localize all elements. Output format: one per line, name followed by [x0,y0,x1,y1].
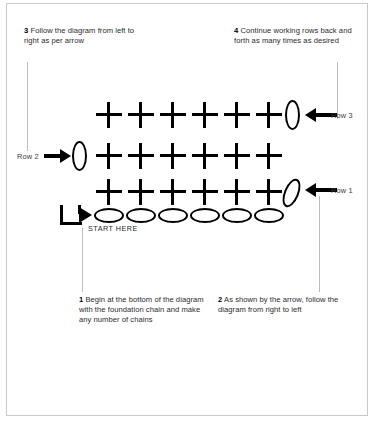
instruction-note-2: 2 As shown by the arrow, follow the diag… [218,295,343,315]
row-2-label: Row 2 [17,152,39,161]
foundation-chain-link [158,208,188,223]
instruction-note-4: 4 Continue working rows back and forth a… [234,26,359,46]
stitch-cross [192,102,218,128]
stitch-cross [192,179,218,205]
stitch-cross [256,143,282,169]
note-1-text: Begin at the bottom of the diagram with … [79,295,204,324]
diagram-page: 3 Follow the diagram from left to right … [0,0,376,421]
stitch-cross [224,102,250,128]
stitch-cross [128,143,154,169]
stitch-cross [160,143,186,169]
stitch-cross [128,102,154,128]
turning-chain-row-3 [285,100,300,130]
note-2-text: As shown by the arrow, follow the diagra… [218,295,338,314]
foundation-chain-link [222,208,252,223]
stitch-cross [256,102,282,128]
start-here-label: START HERE [88,224,138,233]
note-3-text: Follow the diagram from left to right as… [24,26,134,45]
stitch-cross [96,179,122,205]
foundation-chain-link [254,208,284,223]
turning-chain-row-2 [72,141,87,171]
instruction-note-1: 1 Begin at the bottom of the diagram wit… [79,295,204,326]
foundation-chain-link [190,208,220,223]
leader-line-note-2 [319,196,320,292]
row-1-label: Row 1 [331,186,353,195]
stitch-cross [96,143,122,169]
stitch-cross [160,179,186,205]
leader-line-note-1 [82,228,83,292]
stitch-cross [224,179,250,205]
stitch-cross [192,143,218,169]
foundation-chain-link [94,208,124,223]
row-2-arrow-icon [44,148,71,164]
note-4-text: Continue working rows back and forth as … [234,26,352,45]
stitch-cross [160,102,186,128]
stitch-cross [224,143,250,169]
leader-line-note-3 [27,62,28,151]
row-3-label: Row 3 [331,111,353,120]
stitch-cross [256,179,282,205]
foundation-chain-link [126,208,156,223]
instruction-note-3: 3 Follow the diagram from left to right … [24,26,144,46]
stitch-cross [96,102,122,128]
stitch-cross [128,179,154,205]
